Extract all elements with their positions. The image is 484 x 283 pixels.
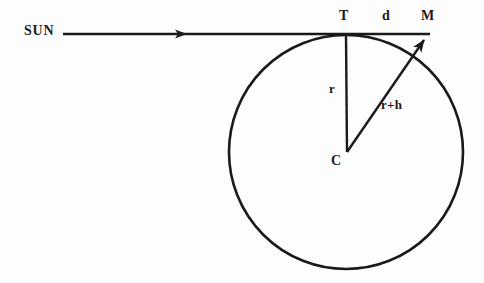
radius-segment (346, 35, 347, 152)
sun-label: SUN (24, 24, 54, 38)
radius-plus-height-label: r+h (381, 98, 402, 111)
diagram-svg (0, 0, 484, 283)
distance-label-d: d (382, 9, 390, 23)
observer-label-m: M (421, 9, 435, 23)
tangent-point-label-t: T (339, 9, 349, 23)
center-label-c: C (331, 154, 341, 168)
diagram-canvas: SUN T d M r r+h C (0, 0, 484, 283)
radius-plus-height-vector (347, 40, 424, 152)
radius-label-r: r (329, 82, 335, 95)
